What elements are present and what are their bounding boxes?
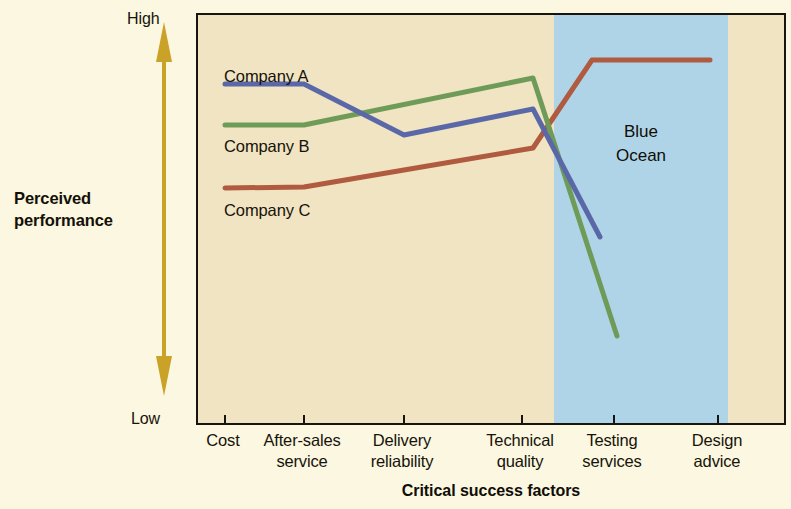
plot-area: Company A Company B Company C Blue Ocean <box>196 13 786 425</box>
x-axis-ticks <box>225 415 718 423</box>
x-axis-label-delivery-reliability-line-2: reliability <box>337 451 467 472</box>
x-axis-label-testing-services-line-1: Testing <box>554 430 670 451</box>
blue-ocean-annotation: Blue Ocean <box>554 120 728 168</box>
x-axis-label-design-advice: Design advice <box>662 430 772 473</box>
x-axis-labels: Cost After-sales service Delivery reliab… <box>196 430 786 478</box>
blue-ocean-line-2: Ocean <box>554 144 728 168</box>
blue-ocean-line-1: Blue <box>554 120 728 144</box>
series-label-company-c: Company C <box>224 201 310 220</box>
x-axis-title: Critical success factors <box>196 482 786 500</box>
x-axis-label-testing-services-line-2: services <box>554 451 670 472</box>
x-axis-label-testing-services: Testing services <box>554 430 670 473</box>
series-label-company-b: Company B <box>224 137 309 156</box>
blue-ocean-strategy-canvas: Perceived performance High Low <box>0 0 791 509</box>
y-axis-title: Perceived performance <box>14 188 154 232</box>
y-axis-title-line-1: Perceived <box>14 188 154 210</box>
x-axis-label-delivery-reliability: Delivery reliability <box>337 430 467 473</box>
series-label-company-a: Company A <box>224 67 308 86</box>
y-axis-low-label: Low <box>131 410 160 428</box>
x-axis-label-design-advice-line-1: Design <box>662 430 772 451</box>
y-axis-title-line-2: performance <box>14 210 154 232</box>
x-axis-label-delivery-reliability-line-1: Delivery <box>337 430 467 451</box>
x-axis-label-design-advice-line-2: advice <box>662 451 772 472</box>
vertical-double-arrow-icon <box>155 22 173 396</box>
